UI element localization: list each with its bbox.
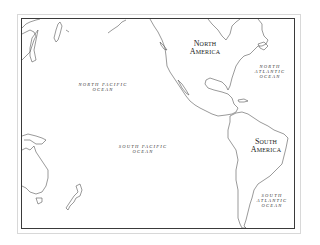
asia-coast-outline [22, 19, 40, 60]
sakhalin [54, 22, 62, 42]
label-south-pacific-ocean: SOUTH PACIFIC OCEAN [108, 145, 178, 155]
aleutian-islands [108, 20, 126, 33]
label-line: OCEAN [252, 204, 292, 209]
australia-outline [22, 146, 48, 194]
label-line: OCEAN [68, 88, 138, 93]
label-south-atlantic-ocean: SOUTH ATLANTIC OCEAN [252, 194, 292, 208]
label-line: America [246, 146, 286, 154]
label-line: OCEAN [108, 150, 178, 155]
label-south-america: South America [246, 138, 286, 155]
tasmania [36, 198, 42, 204]
cuba [238, 99, 248, 102]
new-guinea [22, 134, 46, 144]
label-line: America [185, 48, 225, 56]
label-north-pacific-ocean: NORTH PACIFIC OCEAN [68, 83, 138, 93]
label-north-america: North America [185, 40, 225, 57]
south-america-outline [228, 112, 288, 228]
label-north-atlantic-ocean: NORTH ATLANTIC OCEAN [250, 65, 290, 79]
new-zealand [66, 184, 82, 210]
label-line: OCEAN [250, 75, 290, 80]
